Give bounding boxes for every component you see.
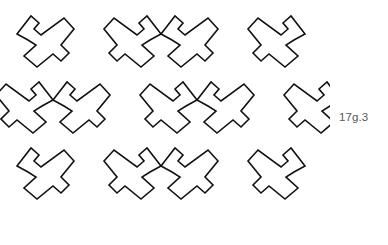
- tessellation-tile: [197, 82, 254, 133]
- tessellation-tile: [17, 148, 74, 199]
- tessellation-tile: [161, 16, 218, 67]
- figure-label: 17g.3: [339, 111, 368, 124]
- tessellation-tile: [17, 16, 74, 67]
- tessellation-tile: [248, 148, 305, 199]
- tile-group: [0, 16, 330, 199]
- tessellation-tile: [284, 82, 330, 133]
- tessellation-pattern: [0, 0, 330, 245]
- tessellation-tile: [0, 82, 53, 133]
- tessellation-tile: [104, 148, 161, 199]
- tessellation-tile: [104, 16, 161, 67]
- figure-container: 17g.3: [0, 0, 388, 245]
- tessellation-tile: [161, 148, 218, 199]
- tessellation-tile: [248, 16, 305, 67]
- tessellation-tile: [140, 82, 197, 133]
- tessellation-tile: [53, 82, 110, 133]
